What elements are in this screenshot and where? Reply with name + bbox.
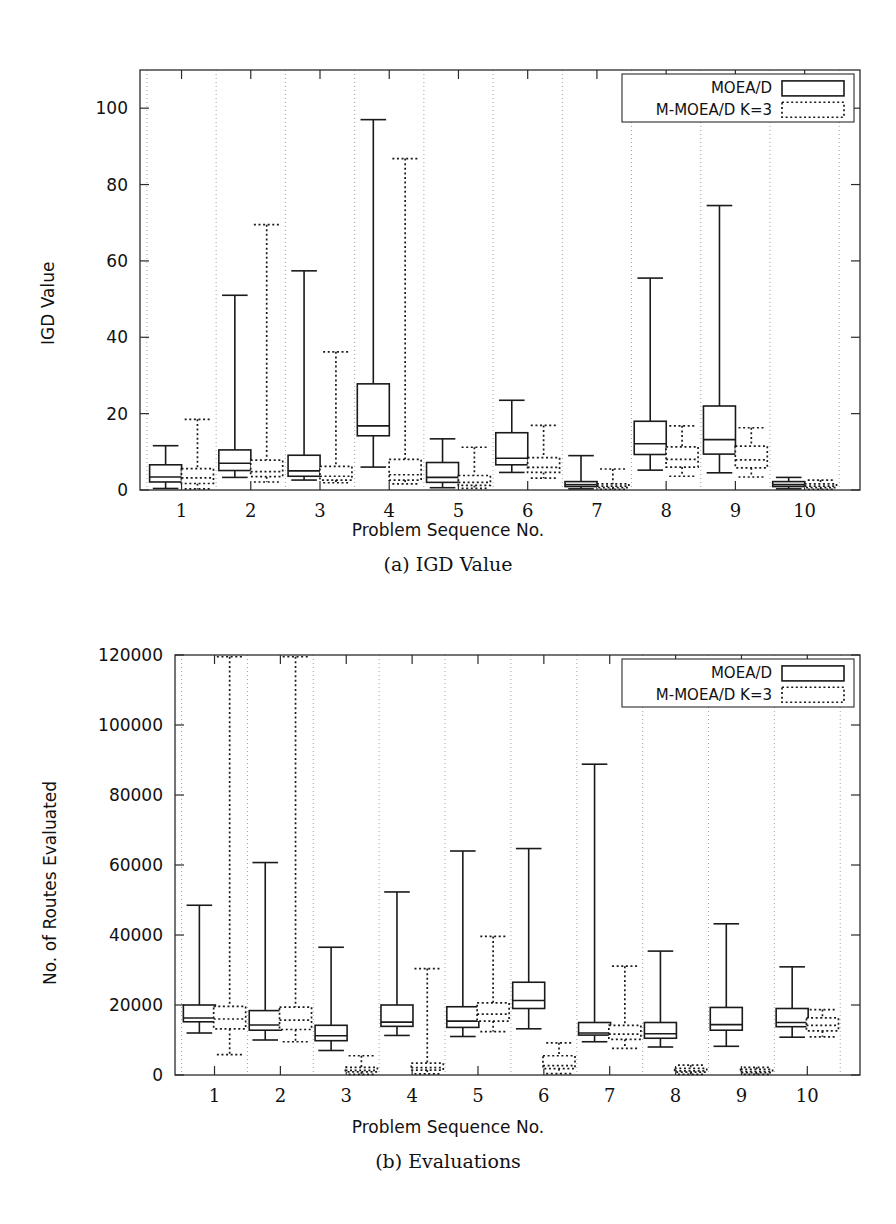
figure-page: 02040608010012345678910MOEA/DM-MOEA/D K=…: [0, 0, 896, 1224]
boxplot-chart-evaluations: 0200004000060000800001000001200001234567…: [0, 600, 896, 1140]
box-iqr: [776, 1009, 808, 1027]
boxplot-chart-igd: 02040608010012345678910MOEA/DM-MOEA/D K=…: [0, 0, 896, 540]
y-axis-title-b: No. of Routes Evaluated: [40, 781, 60, 985]
legend-label-series1: MOEA/D: [711, 664, 772, 682]
box-plot-item: [411, 969, 443, 1074]
box-plot-item: [735, 428, 767, 477]
box-iqr: [357, 384, 389, 436]
box-plot-item: [666, 426, 698, 476]
box-iqr: [703, 406, 735, 454]
box-plot-item: [528, 425, 560, 478]
box-iqr: [389, 459, 421, 480]
box-iqr: [427, 463, 459, 483]
box-plot-item: [773, 477, 805, 488]
legend-label-series1: MOEA/D: [711, 79, 772, 97]
series-2-dotted: [214, 657, 839, 1075]
box-iqr: [458, 475, 490, 485]
box-iqr: [181, 469, 213, 484]
box-iqr: [710, 1007, 742, 1030]
box-plot-item: [427, 439, 459, 488]
x-axis-title-a: Problem Sequence No.: [0, 520, 896, 540]
box-plot-item: [288, 271, 320, 480]
box-plot-item: [447, 851, 479, 1037]
y-tick-label: 100000: [98, 715, 163, 735]
box-plot-item: [703, 206, 735, 473]
box-plot-item: [280, 657, 312, 1042]
legend-key-solid: [782, 666, 844, 681]
y-tick-label: 80000: [109, 785, 163, 805]
figure-b: 0200004000060000800001000001200001234567…: [0, 600, 896, 1200]
y-tick-label: 20000: [109, 995, 163, 1015]
box-iqr: [528, 458, 560, 473]
box-plot-item: [183, 905, 215, 1033]
x-tick-label: 8: [670, 1085, 681, 1106]
y-axis-title-a: IGD Value: [38, 262, 58, 345]
box-plot-item: [565, 456, 597, 489]
box-iqr: [513, 982, 545, 1008]
box-iqr: [150, 465, 182, 482]
box-plot-item: [181, 419, 213, 488]
legend-label-series2: M-MOEA/D K=3: [656, 101, 772, 119]
box-iqr: [447, 1007, 479, 1028]
box-iqr: [249, 1011, 281, 1031]
box-iqr: [411, 1063, 443, 1070]
y-tick-label: 60000: [109, 855, 163, 875]
y-tick-label: 80: [106, 175, 128, 195]
box-plot-item: [741, 1067, 773, 1074]
chart-legend: MOEA/DM-MOEA/D K=3: [622, 659, 854, 707]
box-plot-item: [389, 159, 421, 484]
box-iqr: [381, 1005, 413, 1026]
x-tick-label: 1: [209, 1085, 220, 1106]
box-plot-item: [710, 924, 742, 1047]
box-plot-item: [214, 657, 246, 1055]
x-tick-label: 2: [245, 500, 256, 521]
y-tick-label: 40000: [109, 925, 163, 945]
figure-a: 02040608010012345678910MOEA/DM-MOEA/D K=…: [0, 0, 896, 600]
series-1-solid: [150, 120, 805, 489]
x-tick-label: 8: [660, 500, 671, 521]
x-axis-title-b: Problem Sequence No.: [0, 1117, 896, 1137]
legend-label-series2: M-MOEA/D K=3: [656, 686, 772, 704]
box-plot-item: [597, 469, 629, 489]
y-tick-label: 0: [117, 480, 128, 500]
chart-legend: MOEA/DM-MOEA/D K=3: [622, 74, 854, 122]
box-iqr: [496, 433, 528, 465]
y-tick-label: 60: [106, 251, 128, 271]
box-plot-item: [675, 1065, 707, 1074]
x-tick-label: 3: [341, 1085, 352, 1106]
legend-key-dotted: [782, 102, 844, 117]
box-iqr: [219, 450, 251, 471]
box-iqr: [644, 1023, 676, 1039]
x-tick-label: 9: [730, 500, 741, 521]
box-plot-item: [543, 1043, 575, 1074]
x-tick-label: 6: [522, 500, 533, 521]
box-plot-item: [251, 225, 283, 482]
box-plot-item: [776, 967, 808, 1037]
box-iqr: [183, 1005, 215, 1022]
box-iqr: [280, 1007, 312, 1029]
box-plot-item: [357, 120, 389, 467]
x-tick-label: 7: [591, 500, 602, 521]
box-iqr: [806, 1018, 838, 1031]
x-tick-label: 5: [453, 500, 464, 521]
y-tick-label: 120000: [98, 645, 163, 665]
box-plot-item: [320, 352, 352, 483]
figure-caption-a: (a) IGD Value: [0, 553, 896, 575]
plot-area-b: 0200004000060000800001000001200001234567…: [0, 600, 896, 1140]
box-iqr: [609, 1025, 641, 1039]
box-iqr: [320, 466, 352, 480]
box-plot-item: [609, 966, 641, 1048]
box-iqr: [735, 446, 767, 468]
x-tick-label: 3: [314, 500, 325, 521]
box-plot-item: [634, 278, 666, 470]
box-plot-item: [805, 480, 837, 489]
y-tick-label: 0: [152, 1065, 163, 1085]
box-iqr: [288, 455, 320, 476]
box-iqr: [315, 1025, 347, 1040]
box-plot-item: [381, 892, 413, 1035]
box-plot-item: [150, 446, 182, 489]
y-tick-label: 100: [96, 98, 128, 118]
y-tick-label: 20: [106, 404, 128, 424]
box-plot-item: [345, 1056, 377, 1075]
box-iqr: [634, 421, 666, 454]
